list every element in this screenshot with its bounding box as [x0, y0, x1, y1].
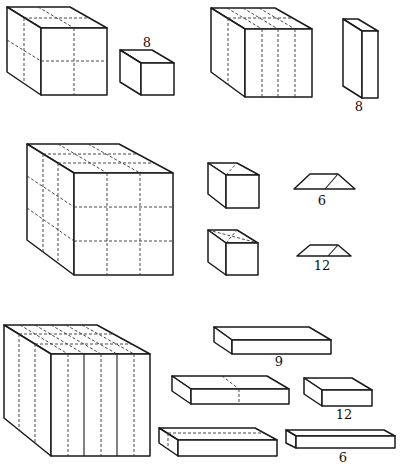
slab-piece: [343, 19, 378, 98]
count-label: 12: [336, 407, 353, 422]
prism-piece: [294, 174, 355, 189]
count-label: 12: [314, 258, 331, 273]
count-label: 8: [355, 99, 363, 114]
count-label: 6: [339, 450, 347, 465]
bar-with-inner-edge-piece: [159, 428, 277, 456]
cube-4-slabs: [211, 8, 312, 97]
prism-piece-small: [297, 245, 351, 256]
small-cube-one-diagonal: [208, 163, 259, 208]
small-cube-two-diagonals: [208, 230, 258, 275]
bar-with-divider-piece: [172, 376, 289, 404]
long-bar-piece: [214, 327, 331, 354]
count-label: 8: [143, 35, 151, 50]
cube-3x3x3: [27, 144, 173, 275]
count-label: 9: [275, 354, 283, 369]
count-label: 6: [318, 193, 326, 208]
cube-2x2x2: [7, 7, 107, 95]
corner-cube-piece: [120, 50, 174, 95]
cube-6-slabs: [4, 325, 150, 456]
thin-bar-piece: [286, 430, 395, 448]
short-bar-piece: [304, 378, 372, 406]
cube-dissection-diagram: 8 8: [0, 0, 403, 471]
